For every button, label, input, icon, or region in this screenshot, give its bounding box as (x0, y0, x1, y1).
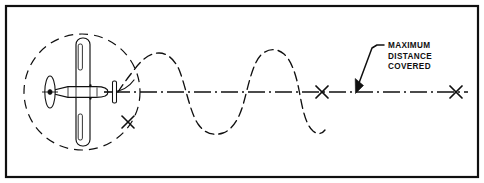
callout-line-2: DISTANCE (388, 52, 432, 61)
callout-line-1: MAXIMUM (388, 41, 430, 50)
aircraft-fuselage (52, 87, 108, 98)
callout-line-3: COVERED (388, 62, 431, 71)
aircraft-wing-root-mark-upper (89, 84, 91, 86)
callout-leader-line (359, 45, 384, 83)
aircraft-horizontal-stabilizer (113, 81, 117, 103)
figure-container: MAXIMUM DISTANCE COVERED (0, 0, 484, 183)
diagram-canvas: MAXIMUM DISTANCE COVERED (0, 0, 484, 183)
aircraft-plan-view (42, 38, 117, 146)
aircraft-wing-root-mark-lower (89, 97, 91, 99)
